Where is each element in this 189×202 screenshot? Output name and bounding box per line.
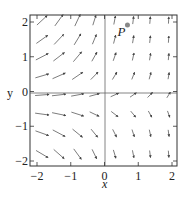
vector-arrow (71, 94, 84, 96)
y-tick-labels: −2−1012 (15, 15, 28, 168)
vector-arrow (53, 52, 64, 61)
vector-arrow (150, 151, 151, 158)
vector-arrow (91, 72, 98, 79)
vector-arrow (92, 149, 97, 158)
point-p-marker (125, 23, 130, 28)
y-axis-title: y (7, 86, 13, 100)
vector-arrow (93, 15, 96, 25)
vector-arrow (132, 53, 134, 60)
vector-arrow (92, 35, 96, 45)
vector-arrow (71, 112, 83, 116)
vector-arrow (53, 130, 65, 137)
vector-arrow (112, 72, 116, 79)
vector-arrows (35, 14, 170, 159)
vector-field-plot: −2−1012 −2−1012 x y P (0, 0, 189, 202)
vector-arrow (54, 34, 64, 44)
vector-arrow (150, 53, 151, 60)
vector-arrow (36, 35, 47, 43)
vector-arrow (55, 15, 63, 26)
vector-arrow (133, 16, 134, 24)
vector-arrow (73, 52, 81, 62)
vector-arrow (133, 36, 134, 44)
vector-arrow (114, 16, 116, 25)
vector-arrow (35, 94, 49, 95)
y-tick-label: 1 (22, 50, 28, 64)
vector-arrow (54, 149, 64, 158)
vector-arrow (36, 54, 48, 60)
zero-axes (30, 15, 177, 166)
vector-arrow (150, 36, 151, 43)
vector-arrow (132, 150, 133, 158)
vector-arrow (149, 72, 151, 79)
vector-arrow (89, 94, 99, 97)
vector-arrow (73, 129, 83, 137)
vector-arrow (52, 113, 66, 116)
vector-arrow (72, 72, 83, 79)
vector-arrow (132, 72, 135, 79)
vector-arrow (91, 129, 98, 137)
axis-ticks (30, 15, 177, 166)
vector-arrow (167, 111, 169, 117)
vector-arrow (150, 17, 151, 24)
vector-arrow (36, 150, 48, 157)
y-tick-label: 0 (22, 85, 28, 99)
x-tick-label: 1 (135, 169, 141, 183)
point-p-label: P (116, 24, 125, 39)
vector-arrow (148, 111, 151, 117)
y-tick-label: −2 (15, 154, 28, 168)
point-annotation: P (116, 23, 130, 40)
x-tick-label: −1 (64, 169, 77, 183)
plot-frame (30, 15, 177, 166)
vector-arrow (35, 113, 49, 115)
vector-arrow (111, 93, 119, 96)
vector-arrow (35, 131, 48, 136)
vector-arrow (132, 130, 134, 137)
vector-arrow (168, 73, 169, 80)
vector-arrow (35, 74, 48, 78)
vector-arrow (52, 94, 66, 96)
vector-arrow (113, 53, 116, 61)
vector-arrow (74, 34, 81, 45)
y-tick-label: 2 (22, 15, 28, 29)
y-tick-label: −1 (15, 119, 28, 133)
vector-arrow (130, 93, 136, 97)
vector-arrow (53, 73, 66, 79)
vector-arrow (131, 111, 136, 117)
vector-arrow (113, 150, 116, 158)
vector-arrow (114, 35, 116, 43)
vector-arrow (75, 14, 80, 26)
vector-arrow (111, 111, 118, 116)
x-tick-label: 2 (169, 169, 175, 183)
vector-arrow (168, 151, 169, 158)
vector-arrow (90, 112, 99, 117)
vector-arrow (168, 53, 169, 60)
x-axis-title: x (101, 177, 108, 191)
vector-arrow (74, 149, 82, 159)
vector-arrow (168, 130, 169, 137)
vector-arrow (92, 52, 97, 61)
x-tick-label: −2 (31, 169, 44, 183)
vector-arrow (149, 130, 151, 137)
vector-arrow (37, 16, 47, 26)
vector-arrow (113, 129, 117, 137)
